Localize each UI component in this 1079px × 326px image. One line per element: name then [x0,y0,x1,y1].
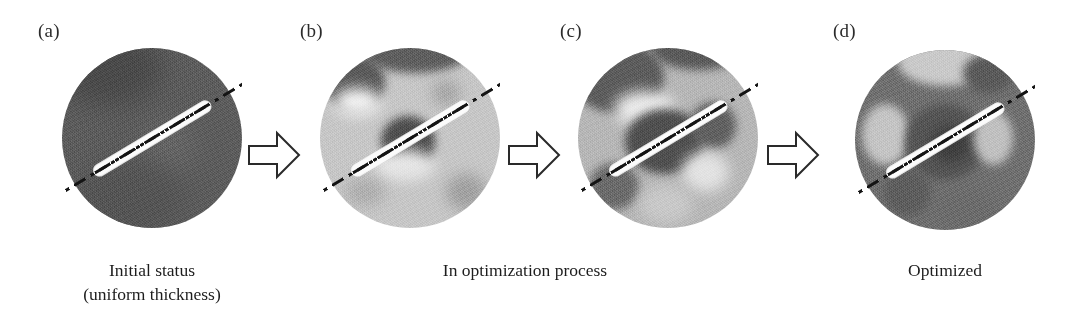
panel-c-light-bottom [639,185,693,225]
panel-d-bright-rib-right [974,111,1014,165]
panel-b-light-rim-left [334,88,381,117]
caption-optimized: Optimized [845,258,1045,282]
panel-b-texture [320,48,500,228]
panel-label-a: (a) [38,20,60,42]
panel-a-shade-top-left [62,48,163,106]
panel-label-b: (b) [300,20,323,42]
panel-a-disc [62,48,242,228]
panel-d-texture [855,50,1035,230]
panel-b-dark-core [381,116,435,166]
panel-d-thickness-map [855,50,1035,230]
panel-b-dark-top-band [360,48,472,73]
panel-b-thickness-map [320,48,500,228]
caption-in-optimization-process: In optimization process [370,258,680,282]
panel-b-disc-clip [320,48,500,228]
panel-d-disc-clip [855,50,1035,230]
panel-c-light-band [614,91,675,127]
panel-a-shade-bottom [76,160,184,228]
panel-c-disc [578,48,758,228]
panel-a-thickness-map [62,48,242,228]
panel-c-disc-clip [578,48,758,228]
panel-c-light-lower-right [682,152,729,192]
panel-a-texture [62,48,242,228]
panel-d-dark-lower-left [884,169,931,216]
arrow-a-to-b [247,130,301,180]
panel-c-dark-right-lobe [690,102,737,149]
panel-b-gray-spot-lower-right [446,174,486,210]
panel-c-dark-lower-left [589,163,639,210]
panel-c-dark-core [625,109,704,174]
panel-d-dark-core [905,104,984,180]
arrow-c-to-d [766,130,820,180]
figure-root: (a) (b) [0,0,1079,326]
panel-label-d: (d) [833,20,856,42]
panel-d-bright-rib-top [898,50,992,86]
panel-c-thickness-map [578,48,758,228]
panel-c-dark-upper-left [578,48,664,113]
arrow-b-to-c [507,130,561,180]
panel-d-disc [855,50,1035,230]
panel-d-dark-bottom [934,187,995,230]
panel-b-gray-spot-lower-left [345,178,385,207]
panel-c-texture [578,48,758,228]
panel-a-disc-clip [62,48,242,228]
caption-initial-status: Initial status (uniform thickness) [22,258,282,306]
panel-b-gray-spot-right [432,80,461,105]
panel-c-dark-top [650,48,747,70]
panel-a-shade-center [141,120,195,174]
panel-d-bright-rib-left [862,104,909,165]
panel-label-c: (c) [560,20,582,42]
panel-b-dark-upper-left [324,55,385,109]
panel-d-darkest-center [931,126,971,162]
panel-b-light-below-core [374,149,435,181]
panel-b-disc [320,48,500,228]
panel-d-dark-upper-right [963,54,1013,94]
